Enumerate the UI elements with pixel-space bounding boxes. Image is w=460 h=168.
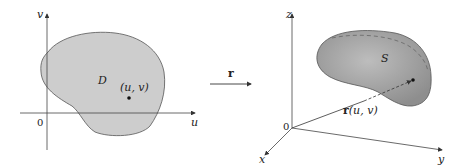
point-uv — [127, 96, 131, 100]
mapping-label: r — [228, 67, 234, 80]
surface-label: S — [381, 52, 389, 65]
x-axis-label: x — [259, 153, 266, 166]
uv-plane — [20, 14, 195, 150]
u-axis-label: u — [191, 116, 198, 129]
diagram-canvas: v u 0 D (u, v) r z x y 0 S r(u, v) — [0, 0, 460, 168]
origin-label-left: 0 — [37, 117, 43, 128]
x-axis — [265, 128, 292, 155]
v-axis-label: v — [37, 8, 44, 21]
y-axis — [292, 128, 442, 150]
vector-label: r(u, v) — [343, 104, 378, 117]
z-axis-label: z — [285, 8, 292, 21]
vector-label-args: (u, v) — [349, 104, 378, 117]
xyz-space — [265, 14, 442, 155]
point-label: (u, v) — [120, 81, 149, 94]
region-label: D — [97, 74, 107, 87]
surface-point — [411, 78, 415, 82]
surface-s — [317, 31, 431, 107]
y-axis-label: y — [437, 153, 445, 166]
origin-label-right: 0 — [283, 121, 289, 132]
